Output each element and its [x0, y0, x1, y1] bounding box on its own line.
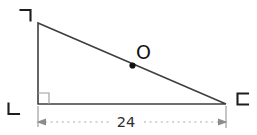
point-o-label: O [136, 41, 151, 63]
triangle-figure: O 24 [0, 0, 257, 135]
vertex-label-nieun [9, 104, 20, 115]
geometry-diagram: O 24 [0, 0, 257, 135]
vertex-label-giyeok [21, 10, 31, 21]
dimension-value: 24 [117, 114, 135, 130]
point-o-dot [129, 62, 135, 68]
right-angle-mark [38, 93, 49, 104]
vertex-label-digeut [238, 94, 249, 105]
